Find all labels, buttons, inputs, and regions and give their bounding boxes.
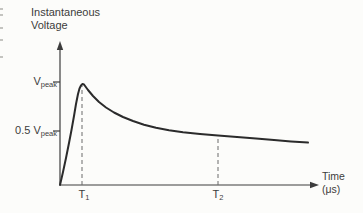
page-edge-mark bbox=[0, 14, 3, 16]
x-axis-arrowhead bbox=[310, 182, 319, 188]
x-axis-label-line2: (μs) bbox=[322, 183, 345, 196]
tick-label-vpeak-main: V bbox=[33, 75, 40, 87]
pulse-waveform-figure: Instantaneous Voltage Vpeak 0.5 Vpeak T1… bbox=[0, 0, 363, 213]
page-edge-mark bbox=[0, 27, 3, 29]
y-axis-label-line1: Instantaneous bbox=[31, 6, 100, 19]
x-axis-label-line1: Time bbox=[322, 170, 345, 183]
tick-label-t2: T2 bbox=[206, 188, 230, 204]
tick-label-half-vpeak-sub: peak bbox=[41, 129, 57, 138]
tick-label-t2-sub: 2 bbox=[219, 193, 223, 202]
tick-label-vpeak-sub: peak bbox=[41, 80, 57, 89]
tick-label-half-vpeak-main: 0.5 V bbox=[15, 124, 41, 136]
page-edge-mark bbox=[0, 8, 3, 10]
y-axis-label: Instantaneous Voltage bbox=[31, 6, 100, 32]
tick-label-vpeak: Vpeak bbox=[33, 75, 57, 91]
tick-label-t1: T1 bbox=[72, 188, 96, 204]
y-axis-arrowhead bbox=[57, 41, 63, 50]
y-axis-label-line2: Voltage bbox=[31, 19, 100, 32]
page-edge-mark bbox=[0, 56, 3, 58]
tick-label-half-vpeak: 0.5 Vpeak bbox=[15, 124, 57, 140]
voltage-curve bbox=[60, 84, 308, 185]
x-axis-label: Time (μs) bbox=[322, 170, 345, 195]
tick-label-t1-sub: 1 bbox=[85, 193, 89, 202]
page-edge-mark bbox=[0, 39, 3, 41]
